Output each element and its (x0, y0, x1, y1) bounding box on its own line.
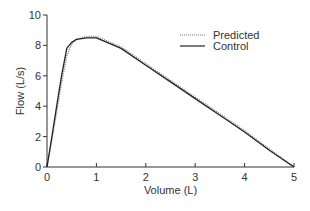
x-tick-label: 4 (242, 171, 248, 183)
y-axis-label: Flow (L/s) (14, 67, 26, 115)
y-tick-label: 8 (35, 39, 41, 51)
series-line-control (47, 38, 294, 167)
x-tick-label: 0 (44, 171, 50, 183)
legend-label-control: Control (213, 40, 248, 52)
flow-volume-chart: 0246810012345Volume (L)Flow (L/s)Predict… (0, 0, 310, 211)
y-tick-label: 0 (35, 161, 41, 173)
y-tick-label: 6 (35, 70, 41, 82)
y-tick-label: 2 (35, 131, 41, 143)
x-tick-label: 1 (93, 171, 99, 183)
y-tick-label: 4 (35, 100, 41, 112)
x-tick-label: 5 (291, 171, 297, 183)
y-tick-label: 10 (29, 9, 41, 21)
series-line-predicted (47, 36, 294, 167)
x-axis-label: Volume (L) (144, 184, 197, 196)
x-tick-label: 2 (143, 171, 149, 183)
x-tick-label: 3 (192, 171, 198, 183)
